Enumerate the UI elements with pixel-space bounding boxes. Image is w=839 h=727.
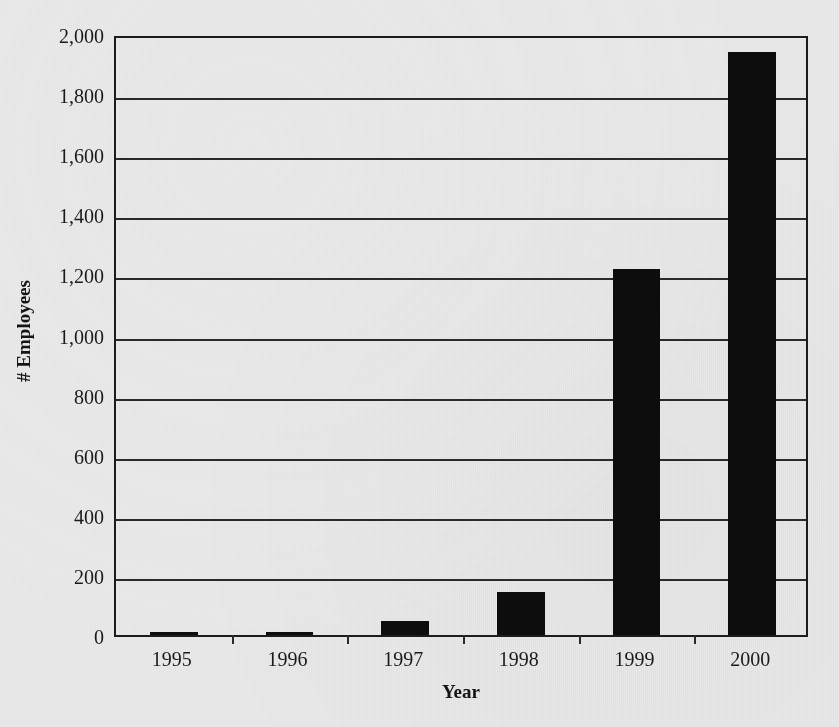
y-axis-tick-label: 0 <box>4 626 104 649</box>
gridline <box>116 459 806 461</box>
x-axis-tick-mark <box>694 635 696 644</box>
gridline <box>116 339 806 341</box>
x-axis-tick-mark <box>463 635 465 644</box>
x-axis-tick-mark <box>232 635 234 644</box>
gridline <box>116 278 806 280</box>
gridline <box>116 519 806 521</box>
bar-1997 <box>381 621 428 635</box>
y-axis-tick-label: 1,800 <box>4 85 104 108</box>
y-axis-tick-label: 1,400 <box>4 205 104 228</box>
gridline <box>116 218 806 220</box>
y-axis-tick-label: 400 <box>4 505 104 528</box>
x-axis-tick-label: 1995 <box>114 648 230 678</box>
bar-1996 <box>266 632 313 635</box>
y-axis-tick-label: 2,000 <box>4 25 104 48</box>
chart-figure: 02004006008001,0001,2001,4001,6001,8002,… <box>0 0 839 727</box>
bar-1995 <box>150 632 197 635</box>
plot-area <box>114 36 808 637</box>
bar-2000 <box>728 52 775 635</box>
x-axis-tick-label: 1999 <box>577 648 693 678</box>
gridline <box>116 98 806 100</box>
y-axis-tick-label: 200 <box>4 565 104 588</box>
bar-1998 <box>497 592 544 635</box>
gridline <box>116 399 806 401</box>
x-axis-tick-mark <box>579 635 581 644</box>
y-axis-title: # Employees <box>13 231 35 431</box>
x-axis-tick-mark <box>347 635 349 644</box>
y-axis-tick-label: 600 <box>4 445 104 468</box>
y-axis-tick-label: 1,600 <box>4 145 104 168</box>
bar-1999 <box>613 269 660 635</box>
x-axis-tick-label: 1998 <box>461 648 577 678</box>
x-axis-tick-label: 2000 <box>692 648 808 678</box>
x-axis-tick-label: 1997 <box>345 648 461 678</box>
gridline <box>116 579 806 581</box>
x-axis-title: Year <box>114 681 808 703</box>
x-axis-tick-label: 1996 <box>230 648 346 678</box>
gridline <box>116 158 806 160</box>
x-axis-tick-labels: 199519961997199819992000 <box>114 648 808 678</box>
